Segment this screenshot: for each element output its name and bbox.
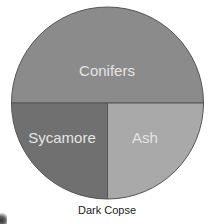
pie-slice-conifers <box>12 7 204 103</box>
scan-artifact <box>0 212 7 224</box>
slice-label-sycamore: Sycamore <box>28 129 96 146</box>
slice-label-conifers: Conifers <box>79 62 135 79</box>
pie-slice-sycamore <box>108 103 204 199</box>
pie-slice-ash <box>12 103 108 199</box>
slice-label-ash: Ash <box>132 129 158 146</box>
pie-chart <box>0 0 209 224</box>
chart-title: Dark Copse <box>78 204 136 216</box>
